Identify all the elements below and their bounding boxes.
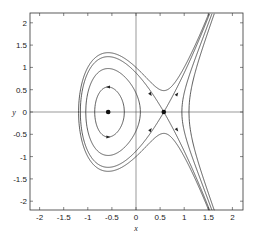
phase-portrait-chart: -2-1.5-1-0.500.511.52-2-1.5-1-0.500.511.… [0,0,257,237]
y-tick-label: -1 [20,153,28,162]
x-tick-label: -1 [84,213,92,222]
x-tick-label: 0.5 [155,213,167,222]
y-tick-label: -2 [20,197,28,206]
y-tick-label: 0 [23,108,28,117]
y-tick-label: -0.5 [13,130,27,139]
plot-frame [30,13,243,210]
direction-arrow-icon [106,85,110,88]
direction-arrow-icon [106,135,110,138]
direction-arrow-icon [175,127,180,132]
x-tick-label: 1.5 [203,213,215,222]
saddle-point [162,110,167,115]
x-tick-label: -1.5 [57,213,71,222]
direction-arrow-icon [148,92,153,97]
y-tick-label: 2 [23,19,28,28]
x-tick-label: 1 [182,213,187,222]
ticks: -2-1.5-1-0.500.511.52-2-1.5-1-0.500.511.… [13,13,243,222]
x-tick-label: 2 [230,213,235,222]
x-tick-label: 0 [134,213,139,222]
direction-arrow-icon [148,127,153,132]
y-axis-label: y [11,108,16,117]
x-tick-label: -0.5 [105,213,119,222]
y-tick-label: 0.5 [16,86,28,95]
direction-arrow-icon [175,91,180,96]
y-tick-label: 1 [23,63,28,72]
center-point [106,110,111,115]
y-tick-label: 1.5 [16,41,28,50]
y-tick-label: -1.5 [13,175,27,184]
x-tick-label: -2 [36,213,44,222]
x-axis-label: x [133,224,138,233]
axis-lines [30,13,243,210]
